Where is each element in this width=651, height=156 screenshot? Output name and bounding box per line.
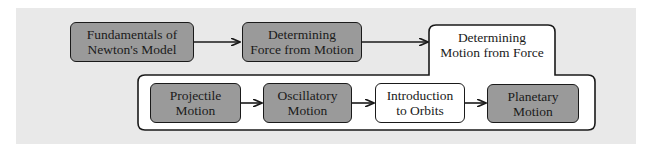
node-oscillatory: Oscillatory Motion [263, 83, 352, 123]
node-fundamentals: Fundamentals of Newton's Model [70, 22, 194, 62]
node-projectile: Projectile Motion [150, 83, 241, 123]
node-planetary: Planetary Motion [487, 84, 579, 123]
node-motion-from-force: Determining Motion from Force [429, 25, 555, 73]
node-orbits-intro: Introduction to Orbits [375, 83, 465, 123]
node-force-from-motion: Determining Force from Motion [242, 22, 362, 62]
